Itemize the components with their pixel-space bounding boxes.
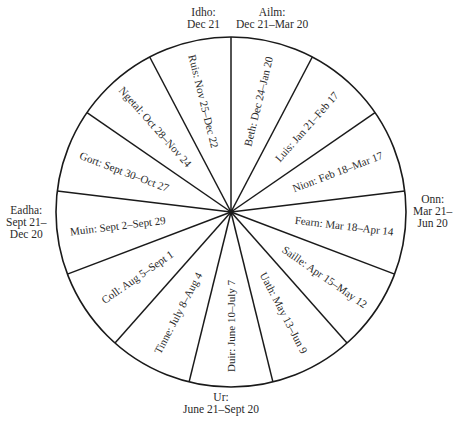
- eadha-date-start: Sept 21–: [6, 216, 47, 228]
- outer-label-ur: Ur: June 21–Sept 20: [183, 391, 259, 415]
- ailm-name: Ailm:: [236, 6, 308, 18]
- onn-date-end: Jun 20: [413, 217, 452, 229]
- eadha-date-end: Dec 20: [6, 228, 47, 240]
- ur-date: June 21–Sept 20: [183, 403, 259, 415]
- sector-label-gort: Gort: Sept 30–Oct 27: [78, 149, 171, 194]
- calendar-wheel: Beth: Dec 24–Jan 20Luis: Jan 21–Feb 17Ni…: [0, 0, 460, 424]
- outer-label-onn: Onn: Mar 21– Jun 20: [413, 193, 452, 229]
- idho-name: Idho:: [187, 6, 220, 18]
- sector-label-muin: Muin: Sept 2–Sept 29: [69, 214, 166, 238]
- sector-label-nion: Nion: Feb 18–Mar 17: [291, 149, 385, 194]
- outer-label-idho: Idho: Dec 21: [187, 6, 220, 30]
- sector-label-luis: Luis: Jan 21–Feb 17: [272, 89, 341, 164]
- sector-label-saille: Saille: Apr 15–May 12: [280, 243, 370, 310]
- idho-date: Dec 21: [187, 18, 220, 30]
- outer-label-ailm: Ailm: Dec 21–Mar 20: [236, 6, 308, 30]
- eadha-name: Eadha:: [6, 204, 47, 216]
- sector-label-coll: Coll: Aug 5–Sept 1: [99, 248, 175, 306]
- ur-name: Ur:: [183, 391, 259, 403]
- sector-label-uath: Uath: May 13–Jun 9: [258, 270, 311, 356]
- outer-label-eadha: Eadha: Sept 21– Dec 20: [6, 204, 47, 240]
- spoke-line: [231, 212, 273, 382]
- wheel-hub: [229, 210, 234, 215]
- sector-label-duir: Duir: June 10–July 7: [225, 280, 237, 372]
- sector-label-ngetal: Ngetal: Oct 28–Nov 24: [117, 84, 195, 169]
- onn-name: Onn:: [413, 193, 452, 205]
- onn-date-start: Mar 21–: [413, 205, 452, 217]
- sector-label-tinne: Tinne: July 8–Aug 4: [152, 270, 205, 356]
- sector-label-ruis: Ruis: Nov 25–Dec 22: [186, 53, 221, 149]
- ailm-date: Dec 21–Mar 20: [236, 18, 308, 30]
- sector-label-fearn: Fearn: Mar 18–Apr 14: [294, 214, 395, 238]
- sector-label-beth: Beth: Dec 24–Jan 20: [241, 55, 275, 148]
